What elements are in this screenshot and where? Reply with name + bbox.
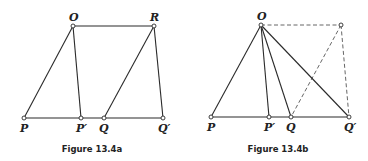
figure-13-4b: O P P′ Q Q′ Figure 13.4b (206, 10, 357, 154)
caption-figure-13-4b: Figure 13.4b (248, 144, 309, 154)
segment-R-Qprime (154, 26, 163, 118)
point-O (71, 24, 75, 28)
label-Qprime: Q′ (344, 121, 357, 134)
point-R (339, 23, 343, 27)
point-Pprime (79, 116, 83, 120)
label-Qprime: Q′ (158, 122, 171, 135)
point-P (22, 116, 26, 120)
segment-O-P (211, 25, 261, 117)
point-O (259, 23, 263, 27)
caption-figure-13-4a: Figure 13.4a (62, 144, 123, 154)
label-R: R (149, 11, 159, 24)
point-Pprime (267, 115, 271, 119)
point-Q (289, 115, 293, 119)
segment-R-Q (104, 26, 154, 118)
point-P (209, 115, 213, 119)
figure-13-4a: O R P P′ Q Q′ Figure 13.4a (19, 11, 171, 154)
point-Qprime (347, 115, 351, 119)
point-R (152, 24, 156, 28)
label-Pprime: P′ (263, 121, 275, 134)
segment-O-Qprime (261, 25, 349, 117)
diagram-canvas: O R P P′ Q Q′ Figure 13.4a O P P′ Q Q′ F… (0, 0, 368, 161)
label-Pprime: P′ (75, 122, 87, 135)
label-P: P (206, 121, 216, 134)
segment-O-P (24, 26, 73, 118)
segment-R-Q-dashed (291, 25, 341, 117)
point-Qprime (161, 116, 165, 120)
label-O: O (69, 11, 79, 24)
label-O: O (257, 10, 267, 23)
segment-O-Pprime (73, 26, 81, 118)
label-P: P (19, 122, 29, 135)
segment-R-Qprime-dashed (341, 25, 349, 117)
label-Q: Q (286, 121, 296, 134)
point-Q (102, 116, 106, 120)
label-Q: Q (99, 122, 109, 135)
